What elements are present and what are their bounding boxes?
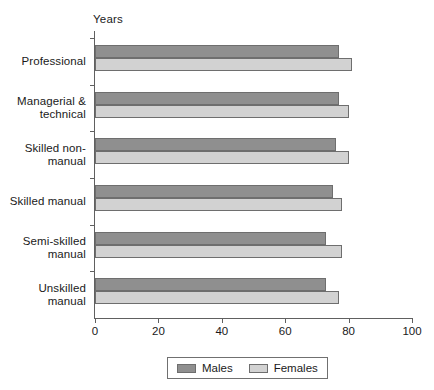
bar-males-0: [95, 45, 339, 58]
x-axis-tick: [95, 318, 96, 323]
legend-entry-males: Males: [177, 362, 233, 374]
x-axis-tick: [222, 318, 223, 323]
bar-females-0: [95, 58, 352, 71]
bar-females-2: [95, 151, 349, 164]
category-label: Unskilled manual: [0, 282, 86, 308]
legend-swatch-icon: [177, 364, 196, 373]
category-label: Skilled manual: [0, 195, 86, 208]
bar-males-4: [95, 232, 326, 245]
category-label: Managerial & technical: [0, 95, 86, 121]
x-axis-tick-label: 100: [402, 325, 421, 337]
x-axis-tick-label: 0: [92, 325, 98, 337]
category-label: Semi-skilled manual: [0, 235, 86, 261]
x-axis-tick-label: 40: [215, 325, 228, 337]
bar-females-4: [95, 245, 342, 258]
bar-chart: Years ProfessionalManagerial & technical…: [0, 0, 434, 390]
bar-males-1: [95, 92, 339, 105]
legend-entry-females: Females: [249, 362, 318, 374]
x-axis-tick: [158, 318, 159, 323]
category-row: Skilled non- manual: [95, 131, 412, 178]
x-axis-tick-label: 80: [342, 325, 355, 337]
x-axis-tick-label: 60: [279, 325, 292, 337]
category-row: Unskilled manual: [95, 271, 412, 318]
category-label: Skilled non- manual: [0, 142, 86, 168]
category-row: Managerial & technical: [95, 85, 412, 132]
bar-females-5: [95, 291, 339, 304]
chart-legend: MalesFemales: [167, 357, 328, 379]
x-axis-tick: [412, 318, 413, 323]
x-axis-tick: [285, 318, 286, 323]
y-axis-tick: [90, 38, 95, 39]
plot-area: ProfessionalManagerial & technicalSkille…: [95, 38, 412, 318]
category-row: Professional: [95, 38, 412, 85]
bar-males-3: [95, 185, 333, 198]
y-axis-tick: [90, 225, 95, 226]
legend-swatch-icon: [249, 364, 268, 373]
legend-label: Males: [202, 362, 233, 374]
y-axis-tick: [90, 178, 95, 179]
bar-males-2: [95, 138, 336, 151]
category-row: Semi-skilled manual: [95, 225, 412, 272]
y-axis-tick: [90, 271, 95, 272]
x-axis-line: [94, 318, 413, 319]
y-axis-tick: [90, 131, 95, 132]
category-label: Professional: [0, 55, 86, 68]
bar-males-5: [95, 278, 326, 291]
legend-label: Females: [274, 362, 318, 374]
bar-females-3: [95, 198, 342, 211]
x-axis-tick-label: 20: [152, 325, 165, 337]
y-axis-unit-label: Years: [93, 13, 123, 25]
category-row: Skilled manual: [95, 178, 412, 225]
y-axis-tick: [90, 85, 95, 86]
bar-females-1: [95, 105, 349, 118]
x-axis-tick: [349, 318, 350, 323]
